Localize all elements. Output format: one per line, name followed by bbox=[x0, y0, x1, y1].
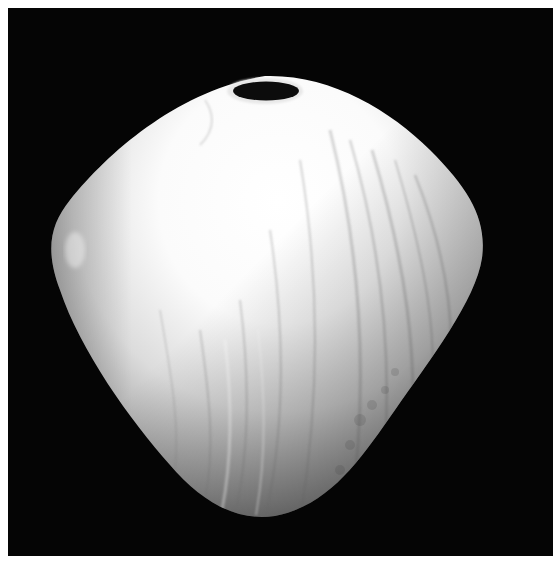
vessel-illustration bbox=[8, 8, 553, 556]
photograph: Turned wooden vessel photograph bbox=[8, 8, 553, 556]
vessel-opening bbox=[233, 82, 299, 101]
